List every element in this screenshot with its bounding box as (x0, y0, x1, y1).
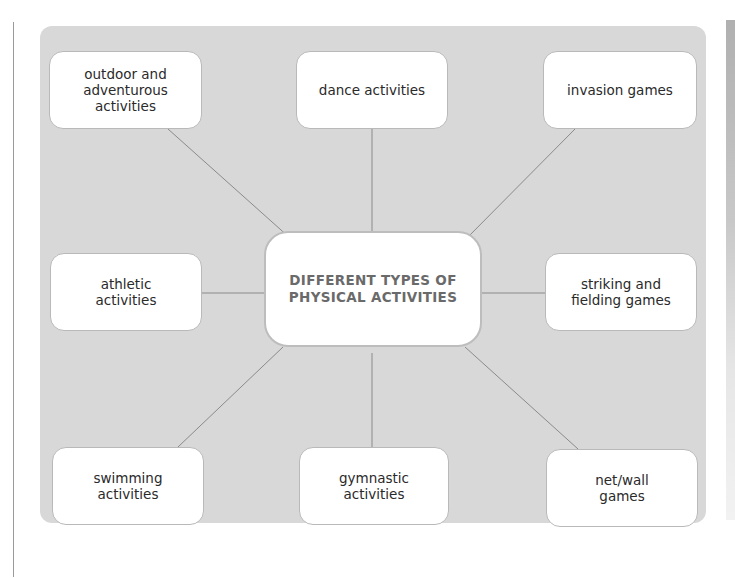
node-gymnastic-activities: gymnastic activities (299, 447, 449, 525)
node-net-wall-games: net/wall games (546, 449, 698, 527)
node-invasion-games: invasion games (543, 51, 697, 129)
connector-swimming (178, 347, 283, 447)
node-swimming-activities: swimming activities (52, 447, 204, 525)
node-striking-fielding-games: striking and fielding games (545, 253, 697, 331)
connector-netwall (465, 347, 578, 449)
connector-invasion (465, 129, 575, 240)
node-outdoor-adventurous-activities: outdoor and adventurous activities (49, 51, 202, 129)
node-athletic-activities: athletic activities (50, 253, 202, 331)
center-node-physical-activities: DIFFERENT TYPES OF PHYSICAL ACTIVITIES (264, 231, 482, 347)
connector-outdoor (168, 129, 290, 238)
node-dance-activities: dance activities (296, 51, 448, 129)
